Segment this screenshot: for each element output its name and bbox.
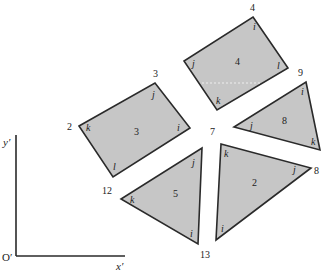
x-axis-label: x′ <box>115 260 124 272</box>
triangle-2-body <box>216 144 311 240</box>
corner-i: i <box>190 228 193 239</box>
corner-k: k <box>130 194 135 205</box>
corner-k: k <box>86 122 91 133</box>
vertex-13-label: 13 <box>200 249 210 260</box>
vertex-2-label: 2 <box>67 121 72 132</box>
corner-i: i <box>253 21 256 32</box>
diagram-svg: y′ O′ x′ 3 k j i l 4 i l k j 8 i k <box>0 0 325 273</box>
rectangle-4-center-label: 4 <box>235 56 240 67</box>
triangle-8-center-label: 8 <box>282 115 287 126</box>
vertex-9-label: 9 <box>298 67 303 78</box>
corner-i: i <box>221 223 224 234</box>
rectangle-3: 3 k j i l <box>79 83 190 177</box>
y-axis-label: y′ <box>2 136 11 148</box>
corner-i: i <box>177 122 180 133</box>
vertex-8-label: 8 <box>314 165 319 176</box>
corner-l: l <box>277 60 280 71</box>
triangle-2: 2 k j i <box>216 144 311 240</box>
origin-label: O′ <box>2 251 12 263</box>
vertex-3-label: 3 <box>153 68 158 79</box>
rectangle-4: 4 i l k j <box>184 17 288 110</box>
corner-k: k <box>224 148 229 159</box>
corner-k: k <box>216 95 221 106</box>
corner-i: i <box>301 86 304 97</box>
triangle-5-center-label: 5 <box>173 188 178 199</box>
vertex-7-label: 7 <box>210 126 215 137</box>
rectangle-3-center-label: 3 <box>134 126 139 137</box>
vertex-4-label: 4 <box>250 2 255 13</box>
diagram-canvas: y′ O′ x′ 3 k j i l 4 i l k j 8 i k <box>0 0 325 273</box>
vertex-12-label: 12 <box>102 185 112 196</box>
triangle-2-center-label: 2 <box>252 177 257 188</box>
corner-l: l <box>113 161 116 172</box>
corner-k: k <box>311 136 316 147</box>
